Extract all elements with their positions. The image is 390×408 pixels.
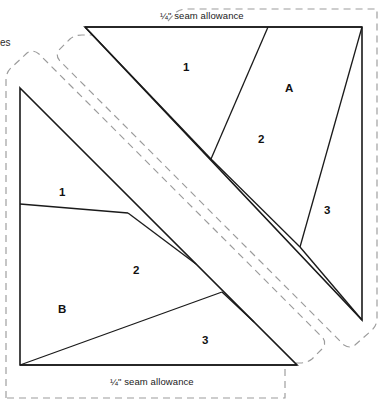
pattern-page: ¼" seam allowance ¼" seam allowance es 1… [0, 0, 390, 408]
piece-label-b-2: 2 [133, 264, 139, 276]
piece-label-b-3: 3 [202, 334, 208, 346]
seam-allowance-label-bottom: ¼" seam allowance [110, 376, 194, 387]
piece-label-b-1: 1 [59, 186, 65, 198]
piece-label-a-2: 2 [258, 133, 264, 145]
seam-allowance-label-top: ¼" seam allowance [160, 10, 244, 21]
piece-label-a-1: 1 [183, 61, 189, 73]
piece-label-a-3: 3 [324, 204, 330, 216]
template-letter-a: A [285, 82, 293, 94]
quilt-template-diagram [0, 0, 390, 408]
template-letter-b: B [58, 303, 66, 315]
cut-off-left-text: es [0, 37, 11, 48]
